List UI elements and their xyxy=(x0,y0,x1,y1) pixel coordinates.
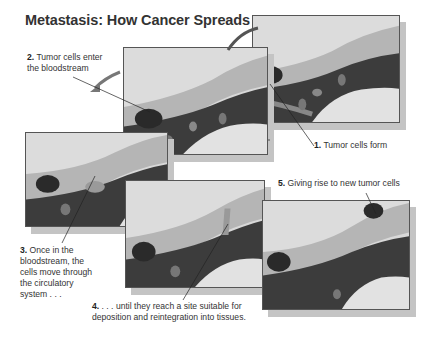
caption-step-1: 1. Tumor cells form xyxy=(314,140,387,151)
step-number: 3. xyxy=(20,245,27,255)
caption-step-4: 4. . . . until they reach a site suitabl… xyxy=(92,301,246,323)
step-number: 2. xyxy=(27,52,34,62)
panel-tumor-forms xyxy=(252,15,400,123)
caption-step-2: 2. Tumor cells enter the bloodstream xyxy=(27,52,102,74)
step-number: 4. xyxy=(92,301,99,311)
arrow-icon xyxy=(95,72,120,88)
caption-step-5: 5. Giving rise to new tumor cells xyxy=(278,178,400,189)
diagram-title: Metastasis: How Cancer Spreads xyxy=(25,12,250,28)
tissue-illustration xyxy=(126,181,264,287)
step-number: 1. xyxy=(314,140,321,150)
arrow-head-icon xyxy=(90,84,100,92)
tissue-illustration xyxy=(263,201,409,309)
caption-step-3: 3. Once in the bloodstream, the cells mo… xyxy=(20,245,92,300)
step-number: 5. xyxy=(278,178,285,188)
tissue-illustration xyxy=(253,16,399,122)
panel-new-tumor xyxy=(262,200,410,310)
panel-reach-site xyxy=(125,180,265,288)
